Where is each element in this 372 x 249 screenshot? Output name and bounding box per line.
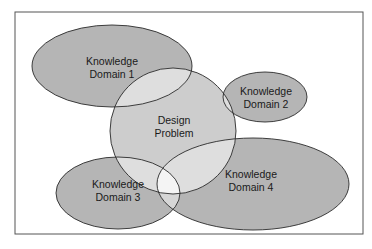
svg-text:Problem: Problem [154,127,193,139]
design-problem-label: Design Problem [154,114,193,139]
venn-diagram: Knowledge Domain 1 Knowledge Domain 2 De… [0,0,372,249]
svg-text:Knowledge: Knowledge [225,168,277,180]
svg-text:Design: Design [158,114,191,126]
svg-text:Knowledge: Knowledge [240,85,292,97]
domain-1-label: Knowledge Domain 1 [86,55,138,80]
svg-text:Knowledge: Knowledge [92,178,144,190]
svg-text:Domain 3: Domain 3 [96,191,141,203]
svg-text:Domain 2: Domain 2 [244,98,289,110]
svg-text:Domain 1: Domain 1 [90,68,135,80]
domain-4-label: Knowledge Domain 4 [225,168,277,193]
domain-3-label: Knowledge Domain 3 [92,178,144,203]
svg-text:Knowledge: Knowledge [86,55,138,67]
domain-2-label: Knowledge Domain 2 [240,85,292,110]
svg-text:Domain 4: Domain 4 [229,181,274,193]
